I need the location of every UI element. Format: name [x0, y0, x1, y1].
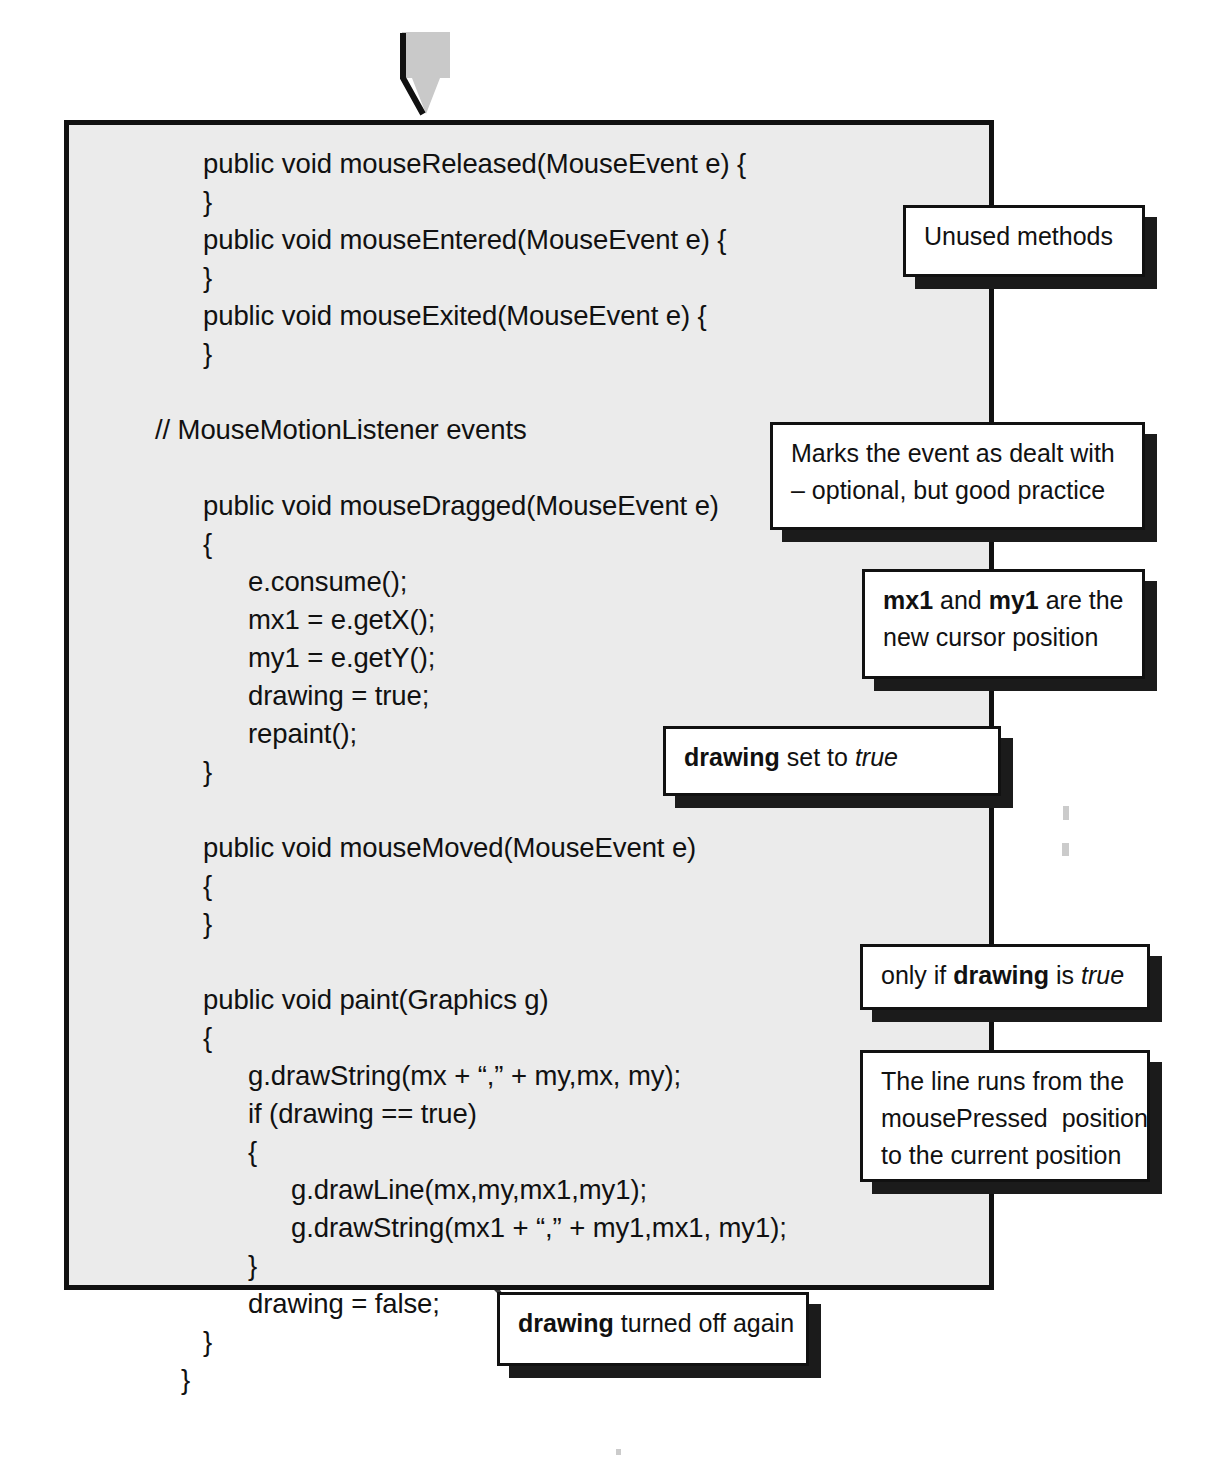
code-line: }: [248, 1247, 257, 1285]
callout-text-run: Marks the event as dealt with: [791, 439, 1115, 467]
code-line: public void mouseMoved(MouseEvent e): [203, 829, 696, 867]
callout-text-run: set to: [780, 743, 855, 771]
callout-only-if-drawing: only if drawing is true: [860, 944, 1150, 1010]
code-line: }: [203, 259, 212, 297]
callout-line: drawing set to true: [684, 739, 982, 776]
code-line: {: [203, 525, 212, 563]
callout-text-run: The line runs from the: [881, 1067, 1124, 1095]
scan-speck: [616, 1449, 621, 1455]
code-line: public void mouseExited(MouseEvent e) {: [203, 297, 707, 335]
scan-speck: [1062, 843, 1069, 856]
callout-text-run: Unused methods: [924, 222, 1113, 250]
scan-speck: [1063, 806, 1069, 820]
callout-drawing-turned-off: drawing turned off again: [497, 1292, 809, 1366]
callout-text-run: is: [1049, 961, 1081, 989]
callout-text-run: drawing: [953, 961, 1049, 989]
code-line: {: [203, 867, 212, 905]
code-line: }: [181, 1361, 190, 1399]
code-line: public void mouseReleased(MouseEvent e) …: [203, 145, 746, 183]
code-line: }: [203, 183, 212, 221]
callout-text-run: new cursor position: [883, 623, 1098, 651]
callout-line: Marks the event as dealt with: [791, 435, 1126, 472]
code-listing: public void mouseReleased(MouseEvent e) …: [69, 125, 989, 1285]
code-line: public void mouseDragged(MouseEvent e): [203, 487, 719, 525]
callout-line: The line runs from the: [881, 1063, 1131, 1100]
callout-text-run: – optional, but good practice: [791, 476, 1105, 504]
callout-unused-methods: Unused methods: [903, 205, 1145, 277]
code-line: if (drawing == true): [248, 1095, 477, 1133]
code-line: g.drawLine(mx,my,mx1,my1);: [291, 1171, 647, 1209]
code-line: g.drawString(mx1 + “,” + my1,mx1, my1);: [291, 1209, 787, 1247]
callout-text-run: drawing: [684, 743, 780, 771]
callout-text-run: only if: [881, 961, 953, 989]
callout-line: Unused methods: [924, 218, 1126, 255]
callout-text-run: mousePressed position: [881, 1104, 1148, 1132]
code-line: public void mouseEntered(MouseEvent e) {: [203, 221, 726, 259]
callout-text-run: turned off again: [614, 1309, 794, 1337]
code-line: e.consume();: [248, 563, 407, 601]
code-line: {: [203, 1019, 212, 1057]
code-line: {: [248, 1133, 257, 1171]
code-line: mx1 = e.getX();: [248, 601, 435, 639]
callout-line: to the current position: [881, 1137, 1131, 1174]
callout-text-run: true: [855, 743, 898, 771]
down-arrow-icon: [394, 30, 456, 116]
callout-line: mousePressed position: [881, 1100, 1131, 1137]
code-line: }: [203, 1323, 212, 1361]
callout-mx1-my1: mx1 and my1 are thenew cursor position: [862, 569, 1145, 679]
callout-line: only if drawing is true: [881, 957, 1131, 994]
callout-marks-event: Marks the event as dealt with– optional,…: [770, 422, 1145, 530]
code-line: my1 = e.getY();: [248, 639, 435, 677]
code-line: }: [203, 905, 212, 943]
code-panel: public void mouseReleased(MouseEvent e) …: [64, 120, 994, 1290]
code-line: // MouseMotionListener events: [155, 411, 527, 449]
diagram-page: public void mouseReleased(MouseEvent e) …: [0, 0, 1219, 1477]
callout-text-run: to the current position: [881, 1141, 1121, 1169]
code-line: repaint();: [248, 715, 357, 753]
code-line: g.drawString(mx + “,” + my,mx, my);: [248, 1057, 681, 1095]
callout-line: – optional, but good practice: [791, 472, 1126, 509]
callout-text-run: drawing: [518, 1309, 614, 1337]
callout-line: new cursor position: [883, 619, 1126, 656]
callout-text-run: mx1: [883, 586, 933, 614]
callout-line: drawing turned off again: [518, 1305, 790, 1342]
callout-line: mx1 and my1 are the: [883, 582, 1126, 619]
code-line: drawing = false;: [248, 1285, 440, 1323]
code-line: }: [203, 753, 212, 791]
callout-text-run: and: [933, 586, 989, 614]
code-line: }: [203, 335, 212, 373]
callout-line-runs-from: The line runs from themousePressed posit…: [860, 1050, 1150, 1182]
code-line: public void paint(Graphics g): [203, 981, 549, 1019]
code-line: drawing = true;: [248, 677, 429, 715]
callout-text-run: are the: [1039, 586, 1124, 614]
callout-text-run: my1: [989, 586, 1039, 614]
callout-text-run: true: [1081, 961, 1124, 989]
callout-drawing-set-true: drawing set to true: [663, 726, 1001, 796]
